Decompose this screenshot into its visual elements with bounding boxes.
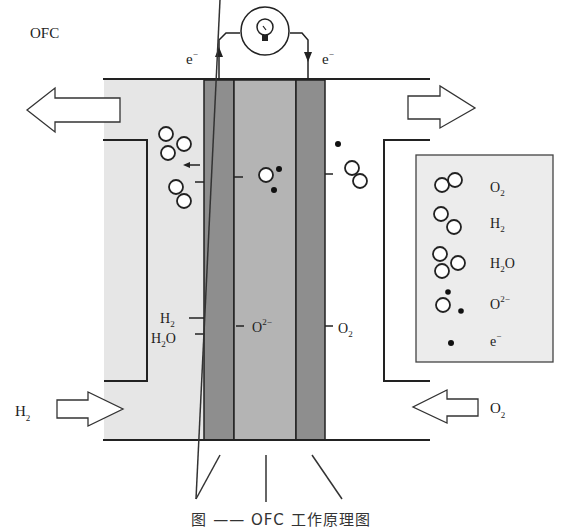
electrolyte-layer [234,80,296,440]
legend-electron-symbol [448,340,454,346]
arrow-up-icon [215,47,223,57]
electron-cathode [335,141,341,147]
cathode-exhaust-arrow-icon [408,86,475,128]
o2-inlet-label: O2 [490,400,505,420]
cathode-layer [296,80,325,440]
load-circle [241,7,289,55]
anode-layer [204,80,234,440]
o2-molecule-cathode [345,161,367,188]
anode-chamber [104,80,204,440]
arrow-down-icon [304,52,312,62]
o2-inlet-arrow-icon [413,390,478,423]
electron-out-label: e− [186,49,198,67]
diagram-title: OFC [30,25,59,41]
sofc-diagram: OFC e− e− H2 O2 [0,0,562,531]
anode-pointer-line-main [196,455,220,499]
figure-caption: 图 —— OFC 工作原理图 [0,508,562,529]
electron-in-label: e− [322,49,334,67]
cathode-pointer-line [312,455,342,499]
legend: O2 H2 H2O O2− e− [416,155,553,362]
h2-inlet-label: H2 [15,403,30,423]
external-circuit [215,7,312,79]
cathode-o2-label: O2 [338,321,353,339]
